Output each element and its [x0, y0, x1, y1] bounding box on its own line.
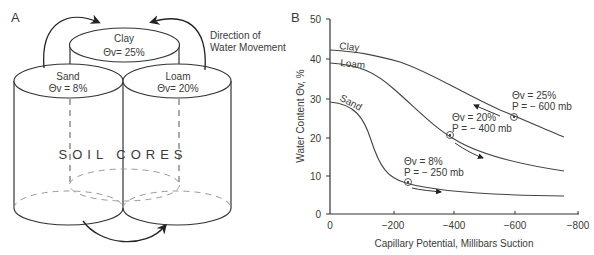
- svg-text:10: 10: [310, 171, 322, 182]
- panel-a: A Clay Θv= 25% Sand Θv: [11, 10, 286, 242]
- clay-theta: Θv= 25%: [103, 47, 145, 58]
- annotation-loam-theta: Θv = 20%: [452, 112, 496, 123]
- y-ticks: 0 10 20 30 40 50: [310, 14, 330, 220]
- svg-text:40: 40: [310, 54, 322, 65]
- svg-text:−800: −800: [567, 220, 590, 231]
- sand-curve-label: Sand: [338, 92, 364, 113]
- annotation-sand-pressure: P = − 250 mb: [404, 167, 464, 178]
- svg-text:20: 20: [310, 133, 322, 144]
- annotation-clay-theta: Θv = 25%: [512, 90, 556, 101]
- loam-name: Loam: [165, 71, 190, 82]
- point-sand: [405, 179, 412, 186]
- direction-label-1: Direction of: [210, 30, 261, 41]
- svg-text:−200: −200: [382, 220, 405, 231]
- clay-core-bottom: [70, 169, 180, 201]
- loam-curve-label: Loam: [340, 57, 366, 71]
- loam-theta: Θv= 20%: [157, 83, 199, 94]
- svg-text:30: 30: [310, 94, 322, 105]
- figure: A Clay Θv= 25% Sand Θv: [0, 0, 594, 255]
- direction-label-2: Water Movement: [210, 42, 286, 53]
- sand-curve: [330, 102, 564, 196]
- panel-b-chart: B 0 10 20 30 40 50 0 −200 −400 −600 −800…: [291, 10, 590, 249]
- sand-name: Sand: [56, 71, 79, 82]
- svg-text:0: 0: [327, 220, 333, 231]
- soil-cores-label: SOIL CORES: [59, 147, 188, 162]
- annotation-clay-pressure: P = − 600 mb: [512, 101, 572, 112]
- clay-name: Clay: [114, 33, 134, 44]
- svg-text:−600: −600: [504, 220, 527, 231]
- sand-loam-cores: Sand Θv = 8% Loam Θv= 20% SOIL CORES: [14, 64, 231, 225]
- sand-theta: Θv = 8%: [49, 83, 88, 94]
- annotation-sand-theta: Θv = 8%: [404, 156, 443, 167]
- panel-b-label: B: [291, 10, 300, 25]
- arrow-sand-to-loam: [83, 221, 165, 242]
- x-axis-label: Capillary Potential, Millibars Suction: [375, 238, 534, 249]
- clay-core: Clay Θv= 25%: [70, 28, 180, 64]
- loam-curve: [330, 63, 564, 171]
- panel-a-label: A: [11, 10, 20, 25]
- y-axis-label: Water Content Θv, %: [295, 69, 306, 162]
- clay-curve-label: Clay: [339, 40, 360, 53]
- svg-text:−400: −400: [443, 220, 466, 231]
- annotation-loam-pressure: P = − 400 mb: [452, 123, 512, 134]
- svg-text:0: 0: [315, 209, 321, 220]
- svg-text:50: 50: [310, 14, 322, 25]
